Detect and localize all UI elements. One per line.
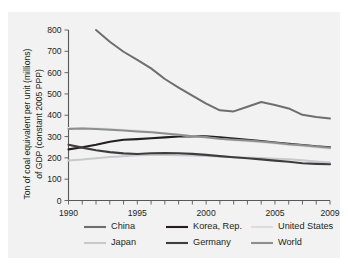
x-axis-ticks: 19901995200020052009: [59, 201, 340, 218]
y-tick-label: 700: [47, 46, 62, 56]
y-axis-title-line1: Ton of coal equivalent per unit (million…: [22, 48, 32, 199]
y-tick-label: 800: [47, 25, 62, 35]
y-tick-label: 0: [57, 196, 62, 206]
x-tick-label: 1995: [128, 208, 147, 218]
series-line-china: [96, 30, 330, 118]
x-tick-label: 2005: [265, 208, 284, 218]
legend-label-world: World: [278, 237, 302, 247]
y-tick-label: 300: [47, 132, 62, 142]
chart-figure: Ton of coal equivalent per unit (million…: [8, 12, 340, 258]
y-tick-label: 500: [47, 89, 62, 99]
legend-label-japan: Japan: [111, 237, 136, 247]
y-tick-label: 100: [47, 174, 62, 184]
y-tick-label: 600: [47, 68, 62, 78]
y-tick-label: 400: [47, 110, 62, 120]
y-axis-ticks: 0100200300400500600700800: [47, 25, 68, 206]
x-tick-label: 1990: [59, 208, 78, 218]
legend-label-china: China: [111, 221, 136, 231]
series-lines: [69, 30, 331, 164]
x-tick-label: 2000: [197, 208, 216, 218]
series-line-united-states: [69, 128, 331, 149]
legend-label-united-states: United States: [278, 221, 334, 231]
chart-plot-area: Ton of coal equivalent per unit (million…: [8, 12, 340, 258]
chart-legend: ChinaKorea, Rep.United StatesJapanGerman…: [84, 221, 334, 247]
legend-label-korea-rep: Korea, Rep.: [193, 221, 242, 231]
series-line-world: [69, 128, 331, 147]
series-line-germany: [69, 145, 331, 165]
y-axis-title: Ton of coal equivalent per unit (million…: [22, 48, 44, 199]
series-line-korea-rep: [69, 136, 331, 149]
line-chart: Ton of coal equivalent per unit (million…: [8, 12, 340, 258]
y-axis-title-line2: of GDP (constant 2005 PPP): [34, 69, 44, 179]
legend-label-germany: Germany: [193, 237, 231, 247]
y-tick-label: 200: [47, 153, 62, 163]
x-tick-label: 2009: [320, 208, 339, 218]
